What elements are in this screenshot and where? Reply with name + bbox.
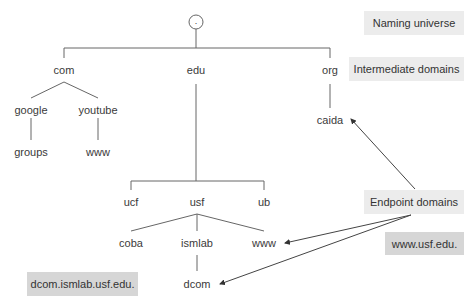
node-www-usf: www (252, 237, 276, 249)
node-org: org (322, 64, 338, 76)
node-usf: usf (190, 196, 205, 208)
node-ismlab: ismlab (181, 237, 213, 249)
arrow-to-caida (351, 119, 415, 189)
legend-naming-universe: Naming universe (364, 11, 464, 35)
root-node: . (195, 16, 198, 26)
node-google: google (14, 104, 47, 116)
node-youtube: youtube (78, 104, 117, 116)
example-www-usf-edu: www.usf.edu. (385, 232, 464, 255)
node-groups: groups (14, 146, 48, 158)
node-ub: ub (258, 196, 270, 208)
node-www-youtube: www (86, 146, 110, 158)
example-dcom-ismlab-usf-edu: dcom.ismlab.usf.edu. (27, 272, 138, 296)
tree-edges (0, 0, 474, 308)
dns-hierarchy-diagram: . com edu org google youtube groups www … (0, 0, 474, 308)
legend-intermediate-domains: Intermediate domains (349, 57, 464, 81)
node-com: com (54, 64, 75, 76)
node-coba: coba (119, 237, 143, 249)
node-ucf: ucf (124, 196, 139, 208)
node-edu: edu (187, 64, 205, 76)
arrow-to-dcom (220, 215, 411, 284)
node-dcom: dcom (184, 278, 211, 290)
node-caida: caida (317, 114, 343, 126)
legend-endpoint-domains: Endpoint domains (364, 190, 464, 214)
